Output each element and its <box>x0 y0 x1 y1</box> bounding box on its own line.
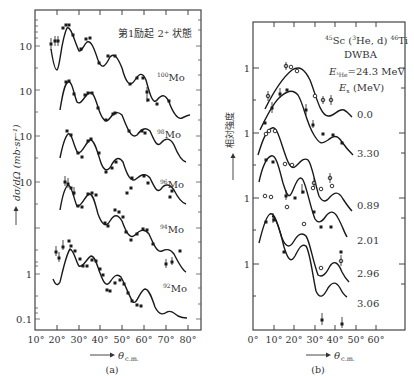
panel-b-x-tick-labels: 0° 10° 20° 30° 40° 50° 60° <box>248 334 385 345</box>
x-tick-label: 40° <box>92 334 109 345</box>
x-tick-label: 60° <box>368 334 385 345</box>
x-tick-label: 0° <box>248 334 259 345</box>
figure: 10 10 10 10 1 0.1 10° 20° 30° 40° 50° 60… <box>0 0 414 376</box>
x-tick-label: 50° <box>114 334 131 345</box>
panel-b-y-tick-labels: 1 1 1 1 <box>244 63 250 270</box>
y-tick-label: 1 <box>244 259 250 270</box>
x-tick-label: 40° <box>327 334 344 345</box>
isotope-label-92mo: 92Mo <box>163 282 187 294</box>
model-label: DWBA <box>344 49 378 60</box>
svg-text:θ: θ <box>118 350 124 361</box>
panel-b-filled-points <box>264 89 344 326</box>
x-tick-label: 10° <box>28 334 45 345</box>
y-tick-label: 1 <box>244 193 250 204</box>
panel-b-caption: (b) <box>311 364 325 375</box>
panel-b-error-bars <box>268 62 342 328</box>
y-tick-label: 1 <box>244 128 250 139</box>
panel-a-x-axis-label: θ c.m. <box>90 350 139 363</box>
x-tick-label: 60° <box>136 334 153 345</box>
panel-b: 1 1 1 1 0° 10° 20° 30° 40° 50° 60° θ c.m… <box>224 22 408 375</box>
panel-b-x-axis-label: θ c.m. <box>306 350 355 363</box>
y-tick-label: 1 <box>26 269 32 280</box>
svg-text:相対強度: 相対強度 <box>224 112 235 148</box>
svg-text:c.m.: c.m. <box>125 355 139 363</box>
ex-label: 2.01 <box>357 235 379 246</box>
ex-label: 3.30 <box>357 148 379 159</box>
panel-b-title-block: 45Sc (3He, d) 46Ti DWBA E³He=24.3 MeV Ex… <box>325 34 408 94</box>
panel-a-caption: (a) <box>105 364 118 375</box>
isotope-label-98mo: 98Mo <box>157 128 181 140</box>
svg-text:dσ/dΩ (mb·sr⁻¹): dσ/dΩ (mb·sr⁻¹) <box>11 124 22 201</box>
isotope-label-94mo: 94Mo <box>160 223 184 235</box>
x-tick-label: 80° <box>180 334 197 345</box>
isotope-label-100mo: 100Mo <box>157 71 185 83</box>
curve-3-06 <box>272 216 347 297</box>
x-tick-label: 20° <box>49 334 66 345</box>
arrow-right-icon <box>110 353 115 358</box>
panel-a-x-tick-labels: 10° 20° 30° 40° 50° 60° 70° 80° <box>28 334 197 345</box>
x-tick-label: 20° <box>286 334 303 345</box>
curve-96mo <box>60 134 186 204</box>
ex-label: 2.96 <box>357 268 379 279</box>
arrow-up-icon <box>14 206 19 211</box>
y-tick-label: 10 <box>19 86 32 97</box>
x-tick-label: 50° <box>348 334 365 345</box>
arrow-up-icon <box>231 153 236 158</box>
curve-98mo <box>60 82 186 162</box>
curve-3-30 <box>260 91 353 155</box>
reaction-label: 45Sc (3He, d) 46Ti <box>325 34 408 46</box>
y-tick-label: 10 <box>19 41 32 52</box>
panel-a-y-ticks <box>35 20 201 319</box>
arrow-right-icon <box>326 353 331 358</box>
svg-text:θ: θ <box>334 350 340 361</box>
y-tick-label: 1 <box>244 63 250 74</box>
y-tick-label: 0.1 <box>16 314 32 325</box>
panel-a-title: 第1励起 2⁺ 状態 <box>118 27 192 39</box>
panel-a-error-bars <box>51 36 172 268</box>
panel-a-data-points <box>50 24 182 308</box>
ex-label: 0.89 <box>357 200 379 211</box>
panel-a: 10 10 10 10 1 0.1 10° 20° 30° 40° 50° 60… <box>11 10 202 375</box>
panel-a-y-axis-label: dσ/dΩ (mb·sr⁻¹) <box>11 124 22 225</box>
x-tick-label: 30° <box>71 334 88 345</box>
ex-label: 3.06 <box>357 298 379 309</box>
ex-header: Ex (MeV) <box>338 82 384 94</box>
panel-b-y-axis-label: 相対強度 <box>224 112 236 180</box>
x-tick-label: 10° <box>266 334 283 345</box>
panel-b-ex-labels: 0.0 3.30 0.89 2.01 2.96 3.06 <box>357 109 379 309</box>
svg-text:c.m.: c.m. <box>341 355 355 363</box>
energy-label: E³He=24.3 MeV <box>328 66 405 78</box>
x-tick-label: 30° <box>307 334 324 345</box>
ex-label: 0.0 <box>357 109 373 120</box>
x-tick-label: 70° <box>158 334 175 345</box>
